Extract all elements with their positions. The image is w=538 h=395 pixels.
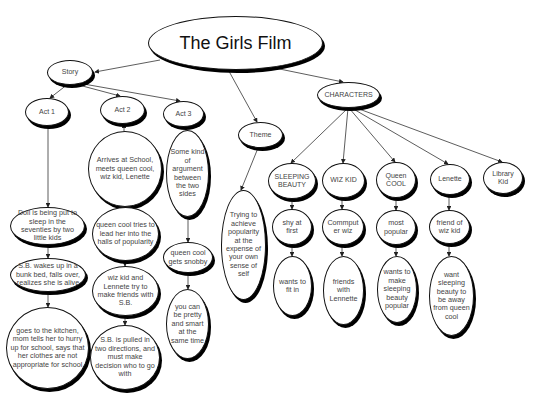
node-act1-sb-wakes-up[interactable]: S.B. wakes up in a bunk bed, falls over,… — [10, 258, 86, 292]
node-library-kid-label: Library Kid — [484, 170, 522, 187]
node-qc-1-label: most popular — [377, 219, 415, 236]
node-act-2-label: Act 2 — [112, 106, 134, 114]
node-sb-2-label: wants to fit in — [274, 278, 311, 295]
node-queen-cool[interactable]: Queen COOL — [376, 162, 416, 198]
node-act-3[interactable]: Act 3 — [163, 101, 204, 127]
node-wk-1-label: Commput er wiz — [323, 219, 363, 236]
node-act3-3-label: you can be pretty and smart at the same … — [167, 303, 208, 345]
node-act3-queen-cool-snobby[interactable]: queen cool gets snobby — [163, 242, 213, 273]
node-len-friend-of-wiz-kid[interactable]: friend of wiz kid — [429, 210, 470, 244]
node-act-3-label: Act 3 — [173, 110, 195, 118]
node-story-label: Story — [59, 68, 81, 76]
root-node-label: The Girls Film — [177, 33, 295, 53]
node-theme-1-label: Trying to achieve popularity at the expe… — [222, 211, 265, 278]
node-theme-label: Theme — [247, 131, 275, 139]
node-act2-1-label: Arrives at School, meets queen cool, wiz… — [89, 156, 161, 181]
node-wk-friends-with-lennette[interactable]: friends with Lennette — [323, 256, 364, 325]
node-act1-1-label: Doll is being put to sleep in the sevent… — [11, 209, 84, 243]
node-len-away-from-queen-cool[interactable]: want sleeping beauty to be away from que… — [429, 256, 474, 336]
node-act1-goes-to-kitchen[interactable]: goes to the kitchen, mom tells her to hu… — [6, 307, 89, 389]
node-qc-2-label: wants to make sleeping beauty popular — [378, 268, 416, 310]
node-sb-wants-to-fit-in[interactable]: wants to fit in — [273, 256, 312, 316]
node-act-1-label: Act 1 — [36, 108, 58, 116]
node-wiz-kid[interactable]: WIZ KID — [322, 163, 365, 198]
node-len-1-label: friend of wiz kid — [430, 219, 469, 236]
node-theme-popularity[interactable]: Trying to achieve popularity at the expe… — [221, 190, 266, 300]
node-act2-4-label: S.B. is pulled in two directions, and mu… — [91, 336, 159, 378]
node-sb-shy-at-first[interactable]: shy at first — [272, 209, 312, 245]
node-characters[interactable]: CHARACTERS — [317, 82, 380, 108]
node-act2-sb-pulled[interactable]: S.B. is pulled in two directions, and mu… — [90, 325, 160, 390]
node-act3-1-label: Some kind of argument between the two si… — [167, 148, 208, 198]
node-wiz-kid-label: WIZ KID — [327, 176, 359, 184]
node-act-2[interactable]: Act 2 — [100, 96, 145, 124]
node-act1-2-label: S.B. wakes up in a bunk bed, falls over,… — [11, 262, 85, 287]
node-wk-2-label: friends with Lennette — [324, 278, 363, 303]
node-qc-most-popular[interactable]: most popular — [376, 210, 416, 245]
node-act1-3-label: goes to the kitchen, mom tells her to hu… — [7, 327, 88, 369]
node-story[interactable]: Story — [47, 60, 93, 85]
node-wk-computer-wiz[interactable]: Commput er wiz — [322, 209, 364, 245]
node-characters-label: CHARACTERS — [321, 91, 375, 99]
node-lenette-label: Lenette — [435, 175, 464, 183]
node-sb-1-label: shy at first — [273, 219, 311, 236]
node-act3-argument[interactable]: Some kind of argument between the two si… — [166, 130, 209, 217]
node-qc-make-sb-popular[interactable]: wants to make sleeping beauty popular — [377, 256, 417, 323]
node-act2-2-label: queen cool tries to lead her into the ha… — [93, 221, 158, 246]
node-act1-doll-put-to-sleep[interactable]: Doll is being put to sleep in the sevent… — [10, 207, 85, 245]
node-act2-3-label: wiz kid and Lennete try to make friends … — [93, 274, 158, 308]
root-node-the-girls-film[interactable]: The Girls Film — [148, 16, 323, 70]
node-sleeping-beauty[interactable]: SLEEPING BEAUTY — [268, 163, 316, 199]
node-library-kid[interactable]: Library Kid — [483, 162, 523, 194]
node-sleeping-beauty-label: SLEEPING BEAUTY — [269, 173, 315, 190]
node-act3-2-label: queen cool gets snobby — [164, 249, 212, 266]
node-lenette[interactable]: Lenette — [430, 164, 470, 195]
node-act2-arrives-at-school[interactable]: Arrives at School, meets queen cool, wiz… — [88, 131, 162, 207]
node-act2-queen-cool-leads[interactable]: queen cool tries to lead her into the ha… — [92, 207, 159, 261]
node-queen-cool-label: Queen COOL — [377, 172, 415, 189]
node-theme[interactable]: Theme — [238, 122, 283, 148]
node-act2-wiz-kid-lennete[interactable]: wiz kid and Lennete try to make friends … — [92, 266, 159, 316]
node-act3-pretty-and-smart[interactable]: you can be pretty and smart at the same … — [166, 289, 209, 359]
node-len-2-label: want sleeping beauty to be away from que… — [430, 271, 473, 321]
node-act-1[interactable]: Act 1 — [25, 98, 69, 126]
